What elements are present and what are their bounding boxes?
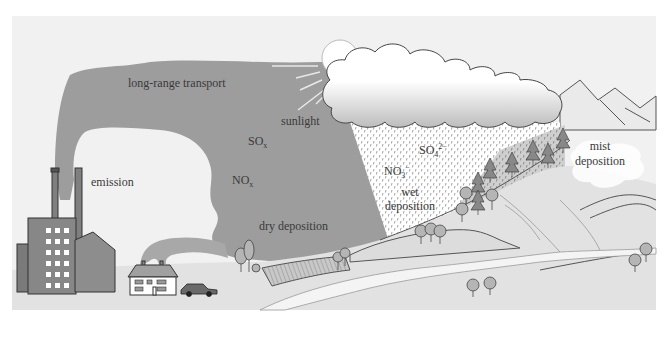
no3-superscript: − bbox=[405, 163, 410, 172]
no3-text: NO bbox=[384, 164, 401, 178]
diagram-canvas bbox=[0, 0, 668, 337]
sox-text: SO bbox=[248, 134, 263, 148]
label-wet: wet bbox=[380, 186, 440, 198]
nox-text: NO bbox=[232, 173, 249, 187]
so4-subscript: 4 bbox=[434, 150, 438, 159]
sox-subscript: x bbox=[263, 141, 267, 150]
label-no3: NO3− bbox=[384, 164, 410, 180]
label-dry-deposition: dry deposition bbox=[259, 220, 328, 232]
label-sunlight: sunlight bbox=[281, 115, 320, 127]
so4-text: SO bbox=[419, 143, 434, 157]
label-mist-deposition: deposition bbox=[560, 155, 640, 167]
label-nox: NOx bbox=[232, 174, 253, 189]
so4-superscript: 2− bbox=[438, 142, 447, 151]
label-long-range-transport: long-range transport bbox=[128, 77, 226, 89]
label-sox: SOx bbox=[248, 135, 267, 150]
label-emission: emission bbox=[91, 176, 134, 188]
acid-deposition-diagram: long-range transport sunlight SOx NOx em… bbox=[0, 0, 668, 337]
label-wet-deposition: deposition bbox=[370, 200, 450, 212]
label-so4: SO42− bbox=[419, 143, 447, 159]
nox-subscript: x bbox=[249, 180, 253, 189]
house bbox=[128, 261, 178, 295]
no3-subscript: 3 bbox=[401, 171, 405, 180]
label-mist: mist bbox=[570, 140, 630, 152]
